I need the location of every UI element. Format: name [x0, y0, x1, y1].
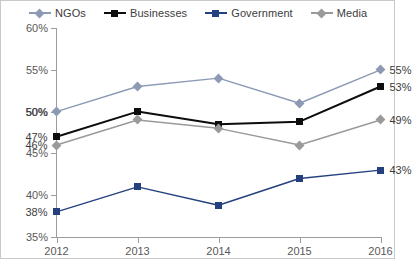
y-tick: [51, 237, 56, 238]
legend-label: NGOs: [55, 7, 86, 19]
x-tick-label: 2016: [368, 245, 392, 257]
data-point-government-2013[interactable]: [134, 183, 141, 190]
x-tick: [300, 237, 301, 243]
data-point-government-2014[interactable]: [215, 202, 222, 209]
legend-item-businesses[interactable]: Businesses: [104, 7, 187, 19]
x-tick-label: 2015: [287, 245, 311, 257]
y-tick-label: 35%: [26, 231, 48, 243]
end-label-businesses: 53%: [390, 81, 412, 93]
data-point-businesses-2016[interactable]: [377, 83, 384, 90]
chart-legend: NGOsBusinessesGovernmentMedia: [29, 4, 367, 22]
x-tick: [381, 237, 382, 243]
y-tick-label: 40%: [26, 189, 48, 201]
legend-label: Government: [231, 7, 293, 19]
legend-swatch-square-icon: [104, 8, 126, 18]
x-tick-label: 2013: [125, 245, 149, 257]
legend-label: Media: [337, 7, 367, 19]
data-point-government-2012[interactable]: [53, 208, 60, 215]
legend-item-ngos[interactable]: NGOs: [29, 7, 86, 19]
x-tick: [57, 237, 58, 243]
legend-label: Businesses: [130, 7, 187, 19]
data-point-businesses-2012[interactable]: [53, 133, 60, 140]
end-label-ngos: 55%: [390, 64, 412, 76]
data-point-businesses-2015[interactable]: [296, 118, 303, 125]
legend-swatch-square-icon: [205, 8, 227, 18]
end-label-media: 49%: [390, 114, 412, 126]
legend-item-government[interactable]: Government: [205, 7, 293, 19]
start-label-ngos: 50%: [25, 106, 47, 118]
x-tick-label: 2012: [44, 245, 68, 257]
start-label-media: 46%: [25, 139, 47, 151]
start-label-government: 38%: [25, 206, 47, 218]
legend-item-media[interactable]: Media: [311, 7, 367, 19]
y-tick-label: 60%: [26, 22, 48, 34]
y-tick-label: 55%: [26, 64, 48, 76]
data-point-government-2015[interactable]: [296, 175, 303, 182]
x-tick: [138, 237, 139, 243]
legend-swatch-diamond-icon: [311, 8, 333, 18]
plot-area: 35%40%45%50%55%60% 20122013201420152016 …: [56, 28, 381, 237]
x-tick-label: 2014: [206, 245, 230, 257]
x-tick: [219, 237, 220, 243]
data-point-government-2016[interactable]: [377, 167, 384, 174]
legend-swatch-diamond-icon: [29, 8, 51, 18]
end-label-government: 43%: [390, 164, 412, 176]
